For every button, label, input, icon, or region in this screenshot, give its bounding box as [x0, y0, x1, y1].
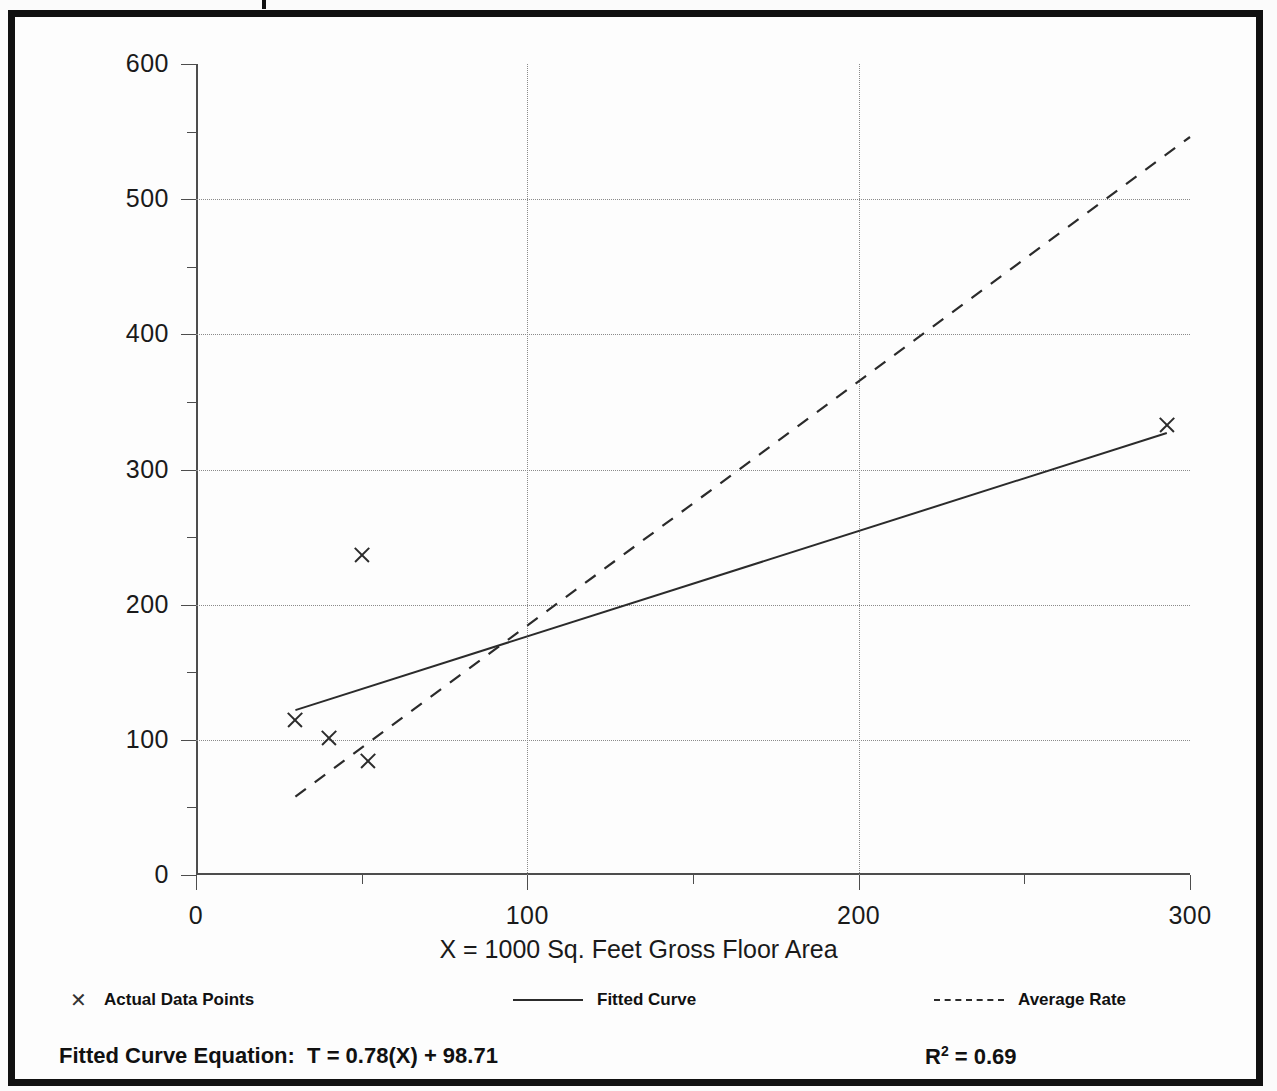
chart-legend: ✕ Actual Data Points Fitted Curve Averag… — [0, 990, 1277, 1024]
y-axis-tick-label: 100 — [89, 725, 169, 754]
x-axis-minor-tick — [693, 875, 694, 884]
legend-item-fitted-curve: Fitted Curve — [513, 990, 696, 1010]
x-axis-title: X = 1000 Sq. Feet Gross Floor Area — [0, 935, 1277, 964]
y-axis-tick — [181, 605, 196, 606]
x-axis-tick — [196, 875, 197, 890]
y-axis-tick — [181, 199, 196, 200]
y-axis-minor-tick — [187, 807, 196, 808]
y-axis-minor-tick — [187, 132, 196, 133]
y-axis-tick — [181, 334, 196, 335]
x-axis-minor-tick — [1024, 875, 1025, 884]
series-lines — [196, 64, 1190, 875]
y-axis-tick — [181, 875, 196, 876]
x-axis-tick-label: 100 — [482, 901, 572, 930]
y-axis-minor-tick — [187, 537, 196, 538]
r2-number: = 0.69 — [949, 1044, 1017, 1069]
legend-label: Average Rate — [1018, 990, 1126, 1010]
x-axis-tick-label: 200 — [814, 901, 904, 930]
x-marker-icon: ✕ — [66, 991, 90, 1009]
footer-annotations: Fitted Curve Equation: T = 0.78(X) + 98.… — [0, 1043, 1277, 1077]
x-axis-tick-label: 300 — [1145, 901, 1235, 930]
y-axis-tick-label: 200 — [89, 590, 169, 619]
fitted-curve-equation: Fitted Curve Equation: T = 0.78(X) + 98.… — [59, 1043, 498, 1069]
x-axis-tick — [527, 875, 528, 890]
legend-label: Fitted Curve — [597, 990, 696, 1010]
chart-page: T = Average Vehicle Trip Ends X = 1000 S… — [0, 0, 1277, 1091]
data-point-marker — [318, 727, 340, 749]
data-point-marker — [1156, 414, 1178, 436]
page-top-mark — [262, 0, 266, 9]
x-axis-tick — [859, 875, 860, 890]
r2-exponent: 2 — [941, 1043, 949, 1059]
y-axis-tick-label: 400 — [89, 319, 169, 348]
fitted-curve-line — [295, 433, 1166, 710]
y-axis-minor-tick — [187, 267, 196, 268]
dashed-line-icon — [934, 991, 1004, 1009]
y-axis-tick — [181, 470, 196, 471]
y-axis-tick-label: 500 — [89, 184, 169, 213]
legend-item-actual-data-points: ✕ Actual Data Points — [66, 990, 254, 1010]
r-squared-value: R2 = 0.69 — [925, 1043, 1017, 1070]
x-axis-tick — [1190, 875, 1191, 890]
data-point-marker — [284, 709, 306, 731]
y-axis-tick-label: 0 — [89, 860, 169, 889]
x-axis-minor-tick — [362, 875, 363, 884]
y-axis-tick-label: 300 — [89, 455, 169, 484]
x-axis-tick-label: 0 — [151, 901, 241, 930]
r2-prefix: R — [925, 1044, 941, 1069]
average-rate-line — [295, 137, 1190, 797]
solid-line-icon — [513, 991, 583, 1009]
y-axis-tick — [181, 740, 196, 741]
legend-item-average-rate: Average Rate — [934, 990, 1126, 1010]
legend-label: Actual Data Points — [104, 990, 254, 1010]
data-point-marker — [357, 750, 379, 772]
y-axis-minor-tick — [187, 402, 196, 403]
plot-area — [196, 64, 1190, 875]
data-point-marker — [351, 544, 373, 566]
y-axis-tick-label: 600 — [89, 49, 169, 78]
y-axis-minor-tick — [187, 672, 196, 673]
y-axis-tick — [181, 64, 196, 65]
